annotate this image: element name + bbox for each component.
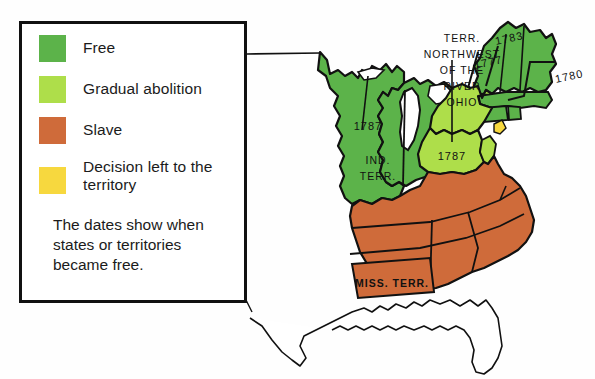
label-northwest-territory-line1: TERR. [444, 32, 481, 44]
legend-swatch-slave [39, 117, 66, 144]
map-figure: TERR. NORTHWEST OF THE RIVER OHIO IND. T… [0, 0, 595, 379]
legend-item-slave: Slave [39, 117, 244, 144]
date-1787-northwest-lower: 1787 [438, 150, 466, 162]
date-1787-northwest-upper: 1787 [354, 120, 382, 132]
legend-note: The dates show when states or territorie… [39, 209, 244, 276]
date-1780-rhode-island: 1780 [554, 67, 584, 85]
region-gulf-florida-outline [250, 300, 502, 374]
legend-label-gradual-abolition: Gradual abolition [83, 80, 202, 98]
label-northwest-territory-line4: RIVER [443, 80, 480, 92]
legend-label-decision-line1: Decision left to [83, 158, 186, 175]
map-legend: Free Gradual abolition Slave Decision le… [19, 21, 247, 303]
legend-item-gradual-abolition: Gradual abolition [39, 76, 244, 103]
region-free-rhodeisland [508, 106, 521, 120]
legend-note-line3: became free. [53, 255, 234, 275]
legend-note-line2: states or territories [53, 235, 234, 255]
label-northwest-territory-line5: OHIO [447, 96, 478, 108]
legend-label-slave: Slave [83, 121, 122, 139]
legend-leader-line [247, 53, 320, 54]
label-indiana-territory-line1: IND. [366, 154, 391, 166]
legend-item-decision-left-to-territory: Decision left to the territory [39, 158, 244, 195]
legend-swatch-free [39, 35, 66, 62]
legend-note-line1: The dates show when [53, 215, 234, 235]
legend-swatch-gradual-abolition [39, 76, 66, 103]
label-mississippi-territory: MISS. TERR. [355, 277, 429, 289]
legend-label-free: Free [83, 39, 115, 57]
label-indiana-territory-line2: TERR. [360, 170, 397, 182]
region-territory-decision [494, 120, 506, 134]
legend-swatch-decision-left-to-territory [39, 167, 66, 194]
legend-item-free: Free [39, 35, 244, 62]
